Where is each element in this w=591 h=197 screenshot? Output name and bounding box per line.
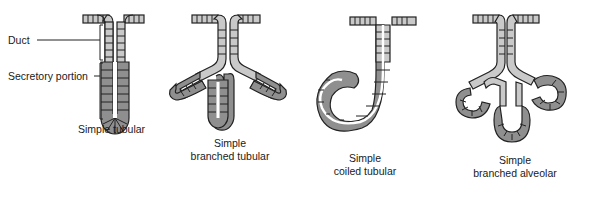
caption-line: coiled tubular: [315, 165, 415, 178]
gland-simple-branched-tubular: [170, 15, 287, 130]
caption-simple-coiled-tubular: Simple coiled tubular: [315, 152, 415, 177]
caption-simple-tubular: Simple tubular: [78, 123, 145, 136]
secretory-portion-label: Secretory portion: [8, 70, 88, 82]
duct-label: Duct: [8, 34, 30, 46]
caption-line: branched tubular: [175, 150, 285, 163]
gland-simple-branched-alveolar: [456, 15, 566, 142]
caption-line: Simple: [175, 137, 285, 150]
caption-line: branched alveolar: [460, 167, 570, 180]
gland-simple-coiled-tubular: [317, 17, 416, 131]
caption-simple-branched-tubular: Simple branched tubular: [175, 137, 285, 162]
caption-line: Simple: [460, 154, 570, 167]
caption-line: Simple: [315, 152, 415, 165]
caption-line: Simple tubular: [78, 123, 145, 136]
caption-simple-branched-alveolar: Simple branched alveolar: [460, 154, 570, 179]
duct-bracket: [100, 25, 103, 60]
